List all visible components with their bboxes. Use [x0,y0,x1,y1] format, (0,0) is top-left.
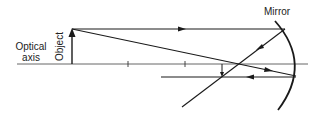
reflected-ray [182,29,285,107]
ray-arrow-icon [178,27,186,32]
optical-axis-label-line1: Optical [14,41,48,52]
mirror-label: Mirror [264,6,290,17]
ray-arrow-icon [246,75,254,80]
optical-axis-label: Optical axis [14,41,48,63]
ray-arrow-icon [256,44,264,50]
object-label: Object [54,27,65,67]
optical-axis-label-line2: axis [14,52,48,63]
focal-ray [72,29,296,76]
